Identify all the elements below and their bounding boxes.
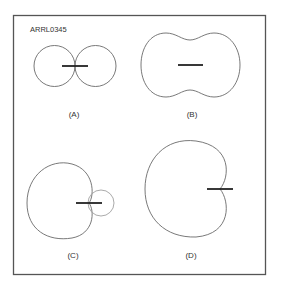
figure-id-label: ARRL0345	[30, 25, 67, 34]
panel-c: (C)	[27, 163, 114, 260]
panel-label-b: (B)	[187, 110, 198, 119]
panel-b: (B)	[141, 33, 240, 119]
panel-label-d: (D)	[185, 251, 196, 260]
panel-label-c: (C)	[67, 251, 78, 260]
main-lobe	[27, 163, 92, 239]
figure-frame	[14, 16, 266, 275]
panel-label-a: (A)	[69, 110, 80, 119]
panel-d: (D)	[145, 141, 233, 260]
antenna-pattern-figure: ARRL0345 (A) (B) (C) (D)	[0, 0, 281, 281]
panel-a: (A)	[34, 46, 116, 120]
